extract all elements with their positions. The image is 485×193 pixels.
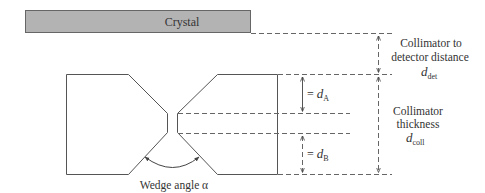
crystal: Crystal: [26, 11, 251, 33]
crystal-label: Crystal: [165, 15, 200, 29]
collimator-thickness-label: Collimator thickness dcoll: [393, 105, 443, 147]
d-a-label: = dA: [307, 86, 329, 103]
svg-text:ddet: ddet: [421, 64, 438, 81]
svg-text:dcoll: dcoll: [406, 130, 425, 147]
d-b-label: = dB: [307, 146, 329, 163]
collimator-diagram: Crystal = dA = dB Collimator to detector…: [0, 0, 485, 193]
wedge-angle-arc: [145, 157, 199, 168]
svg-text:Collimator to: Collimator to: [400, 37, 462, 49]
svg-text:Collimator: Collimator: [393, 105, 443, 117]
svg-text:thickness: thickness: [397, 118, 440, 130]
collimator-left-block: [67, 75, 168, 175]
svg-text:detector distance: detector distance: [391, 51, 469, 63]
detector-distance-label: Collimator to detector distance ddet: [391, 37, 469, 81]
guide-lines: [178, 34, 392, 175]
wedge-angle-label: Wedge angle α: [140, 179, 208, 192]
collimator-right-block: [178, 75, 278, 175]
crystal-bar: [26, 11, 251, 33]
